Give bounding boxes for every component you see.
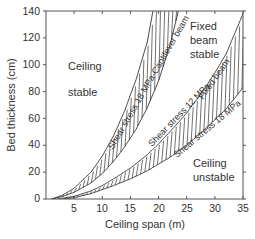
- hatch-cantilever-band: [53, 0, 177, 199]
- region-fixed-beam-stable-line1: Fixed: [190, 20, 217, 32]
- x-tick-35: 35: [237, 202, 249, 214]
- curve-1: [52, 11, 179, 199]
- region-ceiling-stable-line2: stable: [68, 86, 97, 98]
- x-tick-15: 15: [124, 202, 136, 214]
- x-tick-5: 5: [71, 202, 77, 214]
- x-tick-25: 25: [181, 202, 193, 214]
- y-tick-20: 20: [28, 165, 40, 177]
- y-tick-140: 140: [22, 5, 40, 17]
- region-fixed-beam-stable-line2: beam: [190, 34, 218, 46]
- y-tick-120: 120: [22, 31, 40, 43]
- y-tick-labels: 0 20 40 60 80 100 120 140: [22, 5, 40, 204]
- region-fixed-beam-stable-line3: stable: [190, 48, 219, 60]
- y-tick-80: 80: [28, 85, 40, 97]
- region-ceiling-unstable-line1: Ceiling: [193, 157, 227, 169]
- y-tick-0: 0: [34, 192, 40, 204]
- x-axis-title: Ceiling span (m): [105, 218, 185, 230]
- x-tick-30: 30: [209, 202, 221, 214]
- x-tick-labels: 5 10 15 20 25 30 35: [71, 202, 249, 214]
- x-tick-10: 10: [96, 202, 108, 214]
- y-tick-100: 100: [22, 58, 40, 70]
- chart: 0 20 40 60 80 100 120 140 5 10 15 20 25 …: [0, 0, 255, 239]
- y-axis-title: Bed thickness (cm): [5, 58, 17, 152]
- region-ceiling-unstable-line2: unstable: [193, 171, 235, 183]
- y-tick-60: 60: [28, 112, 40, 124]
- x-tick-20: 20: [153, 202, 165, 214]
- y-tick-40: 40: [28, 138, 40, 150]
- region-ceiling-stable-line1: Ceiling: [68, 60, 102, 72]
